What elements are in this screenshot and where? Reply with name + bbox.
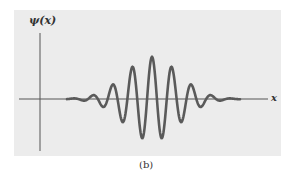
y-axis-label: ψ(x) <box>29 14 56 27</box>
wave-curve <box>67 57 240 138</box>
wave-packet-plot <box>0 0 296 181</box>
figure-caption: (b) <box>139 159 153 170</box>
x-axis-label: x <box>271 92 277 103</box>
